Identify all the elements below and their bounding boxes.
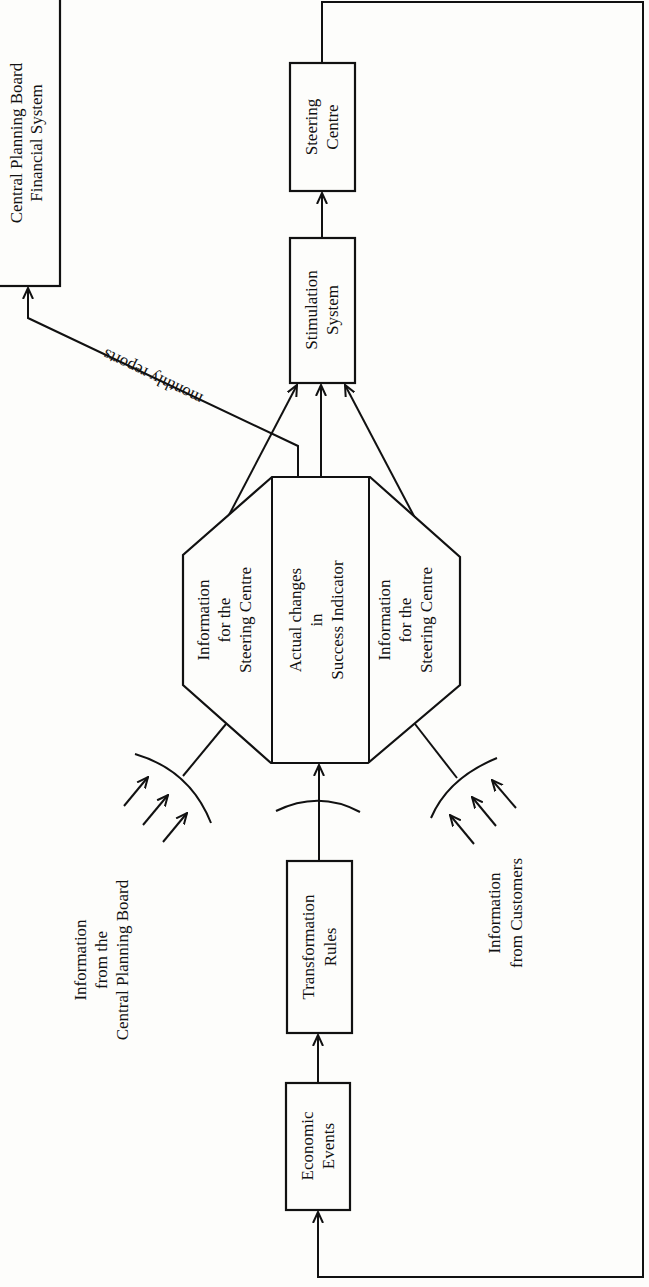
incoming-arrow [492, 780, 516, 808]
label-line: from Customers [507, 858, 526, 968]
panel-label-line: Information [375, 579, 394, 661]
box-label-line: Steering [302, 98, 321, 155]
box-cpb-financial-system: Central Planning Board Financial System [0, 0, 60, 286]
receptor-arc [135, 754, 211, 823]
box-label-line: Events [319, 1123, 338, 1169]
box-label-line: Economic [298, 1111, 317, 1180]
input-receptor-customers [415, 724, 516, 844]
panel-label-line: Steering Centre [417, 567, 436, 673]
box-label-line: Rules [321, 928, 340, 967]
incoming-arrow [450, 815, 474, 844]
box-label-line: Transformation [299, 894, 318, 1000]
box-steering-centre: Steering Centre [290, 63, 355, 191]
box-label-line: Central Planning Board [7, 62, 26, 223]
box-label-line: Stimulation [302, 270, 321, 350]
incoming-arrow [472, 797, 496, 826]
panel-label-line: Information [194, 579, 213, 661]
panel-label-line: Steering Centre [236, 567, 255, 673]
box-label-line: System [323, 285, 342, 335]
box-label-line: Centre [323, 104, 342, 149]
box-economic-events: Economic Events [286, 1083, 350, 1210]
label-line: from the [92, 931, 111, 989]
receptor-arc [431, 758, 497, 818]
box-label-line: Financial System [27, 84, 46, 202]
incoming-arrow [143, 795, 168, 825]
label-line: Information [71, 919, 90, 1001]
input-receptor-cpb [124, 724, 226, 842]
label-info-from-customers: Information from Customers [485, 858, 526, 968]
panel-label-line: for the [215, 598, 234, 643]
incoming-arrow [163, 813, 187, 842]
panel-label-line: Actual changes [286, 568, 305, 672]
label-line: Information [485, 872, 504, 954]
octagon-information-hub: Information for the Steering Centre Actu… [183, 477, 460, 763]
box-stimulation-system: Stimulation System [290, 238, 355, 383]
panel-label-line: Success Indicator [328, 560, 347, 680]
incoming-arrow [124, 777, 148, 806]
label-info-from-cpb: Information from the Central Planning Bo… [71, 879, 132, 1040]
panel-label-line: in [307, 613, 326, 627]
box-transformation-rules: Transformation Rules [287, 861, 352, 1033]
label-line: Central Planning Board [113, 879, 132, 1040]
diagram-canvas: Central Planning Board Financial System … [0, 0, 649, 1287]
label-monthly-reports: monthly reports [100, 345, 206, 409]
panel-label-line: for the [396, 598, 415, 643]
